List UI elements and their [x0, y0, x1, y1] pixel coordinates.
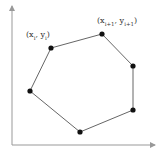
vertex-point-3	[130, 107, 135, 112]
vertex-point-1	[99, 31, 104, 36]
vertex-label-i: (xi, yi)	[26, 30, 50, 41]
polygon-edges	[30, 34, 133, 132]
vertex-point-2	[130, 63, 135, 68]
vertex-point-5	[27, 88, 32, 93]
polygon-vertices	[27, 31, 135, 134]
vertex-label-i-plus-1: (xi+1, yi+1)	[97, 16, 137, 27]
vertex-point-0	[48, 45, 53, 50]
vertex-point-4	[77, 129, 82, 134]
